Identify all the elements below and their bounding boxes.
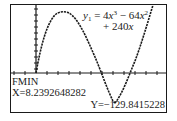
- mode-label: FMIN: [12, 76, 38, 87]
- eq-term-c: + 240: [103, 20, 128, 32]
- x-readout: X=8.2392648282: [12, 87, 86, 98]
- function-equation-line2: + 240x: [103, 21, 133, 32]
- calculator-graph-screen: y1 = 4x3 − 64x2 + 240x FMIN X=8.23926482…: [10, 4, 167, 113]
- y-readout: Y=−129.8415228: [90, 99, 165, 110]
- eq-exponent-2: 2: [145, 9, 149, 17]
- eq-x-var: x: [128, 20, 133, 32]
